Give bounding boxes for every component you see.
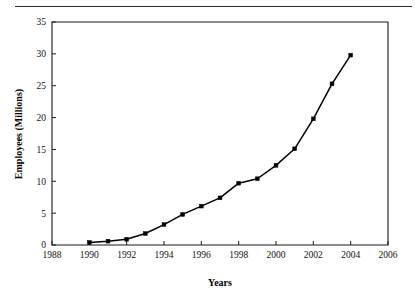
- y-tick-label: 15: [37, 145, 47, 155]
- y-axis-title: Employees (Millions): [13, 89, 25, 179]
- data-point-marker: [106, 239, 110, 243]
- x-tick-label: 2004: [341, 250, 360, 260]
- x-tick-label: 1994: [155, 250, 174, 260]
- data-point-marker: [181, 213, 185, 217]
- x-tick-label: 2000: [267, 250, 286, 260]
- data-point-marker: [237, 181, 241, 185]
- data-point-marker: [218, 196, 222, 200]
- x-axis-tick-labels: 1988199019921994199619982000200220042006: [43, 250, 398, 260]
- data-point-marker: [162, 223, 166, 227]
- figure-container: 05101520253035 1988199019921994199619982…: [0, 0, 415, 300]
- y-axis-tick-labels: 05101520253035: [37, 17, 47, 250]
- x-axis-title: Years: [208, 277, 232, 288]
- data-point-marker: [125, 237, 129, 241]
- x-tick-label: 2006: [379, 250, 398, 260]
- y-tick-label: 35: [37, 17, 47, 27]
- data-point-marker: [293, 147, 297, 151]
- y-tick-label: 20: [37, 113, 47, 123]
- x-tick-label: 1990: [80, 250, 99, 260]
- data-point-marker: [274, 163, 278, 167]
- data-point-marker: [199, 204, 203, 208]
- y-tick-label: 25: [37, 81, 47, 91]
- x-tick-label: 2002: [304, 250, 323, 260]
- x-tick-label: 1998: [229, 250, 248, 260]
- data-point-marker: [330, 82, 334, 86]
- data-point-marker: [255, 177, 259, 181]
- data-point-marker: [349, 53, 353, 57]
- plot-area-background: [52, 22, 388, 245]
- y-tick-label: 5: [41, 209, 46, 219]
- line-chart: 05101520253035 1988199019921994199619982…: [0, 0, 415, 300]
- data-point-marker: [87, 241, 91, 245]
- y-tick-label: 30: [37, 49, 47, 59]
- y-tick-label: 10: [37, 177, 47, 187]
- data-point-marker: [311, 117, 315, 121]
- x-tick-label: 1988: [43, 250, 62, 260]
- x-tick-label: 1996: [192, 250, 211, 260]
- x-tick-label: 1992: [117, 250, 136, 260]
- y-tick-label: 0: [41, 240, 46, 250]
- data-point-marker: [143, 232, 147, 236]
